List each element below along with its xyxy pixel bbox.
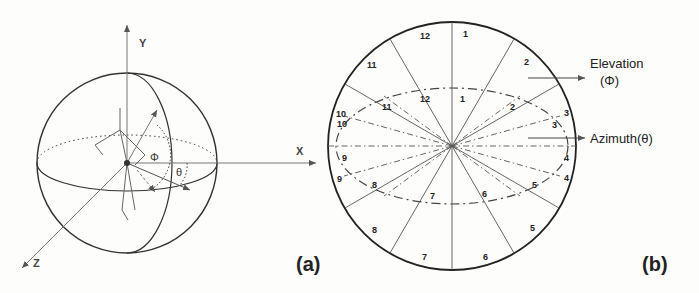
inner-sector-1: 1 [460, 95, 465, 104]
inner-sector-2: 2 [510, 103, 515, 112]
outer-sector-4: 4 [564, 154, 569, 163]
outer-sector-2: 2 [524, 58, 529, 67]
elevation-angle-symbol: Φ [150, 152, 159, 163]
outer-sector-9: 9 [342, 154, 347, 163]
outer-sector-11: 11 [367, 61, 377, 70]
inner-sector-4: 4 [564, 174, 569, 183]
panel-b-label: (b) [642, 254, 668, 274]
outer-sector-8: 8 [372, 226, 377, 235]
inner-sector-12: 12 [420, 95, 430, 104]
figure-canvas: Y X Z Φ θ (a) 1 2 3 4 5 6 7 8 9 10 11 12… [0, 0, 699, 293]
inner-sector-7: 7 [430, 192, 435, 201]
inner-sector-3: 3 [552, 121, 557, 130]
azimuth-angle-symbol: θ [176, 167, 182, 178]
outer-sector-1: 1 [463, 30, 468, 39]
elevation-symbol-label: (Φ) [600, 74, 619, 87]
inner-sector-5: 5 [532, 181, 537, 190]
outer-sector-10: 10 [336, 110, 346, 119]
y-axis-label: Y [139, 38, 146, 49]
z-axis-label: Z [33, 258, 40, 269]
azimuth-label: Azimuth(θ) [590, 132, 653, 145]
inner-sector-9: 9 [337, 175, 342, 184]
outer-sector-7: 7 [422, 253, 427, 262]
diagram-graphics [0, 0, 699, 293]
outer-sector-5: 5 [530, 224, 535, 233]
outer-sector-6: 6 [483, 253, 488, 262]
outer-sector-3: 3 [564, 109, 569, 118]
inner-sector-10: 10 [337, 120, 347, 129]
x-axis-label: X [296, 146, 303, 157]
inner-sector-6: 6 [482, 190, 487, 199]
inner-sector-11: 11 [382, 103, 392, 112]
elevation-label: Elevation [590, 57, 643, 70]
panel-a-label: (a) [296, 254, 320, 274]
inner-sector-8: 8 [372, 181, 377, 190]
outer-sector-12: 12 [420, 32, 430, 41]
sphere-panel-a [22, 25, 316, 268]
